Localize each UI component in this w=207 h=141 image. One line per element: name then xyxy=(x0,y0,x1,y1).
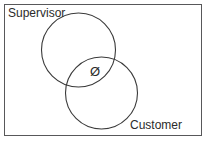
empty-set-symbol: Ø xyxy=(88,64,102,79)
set-label-supervisor: Supervisor xyxy=(8,7,65,20)
set-label-customer: Customer xyxy=(130,119,182,132)
venn-diagram-figure: Supervisor Customer Ø xyxy=(0,0,207,141)
set-circle-supervisor xyxy=(42,13,116,87)
